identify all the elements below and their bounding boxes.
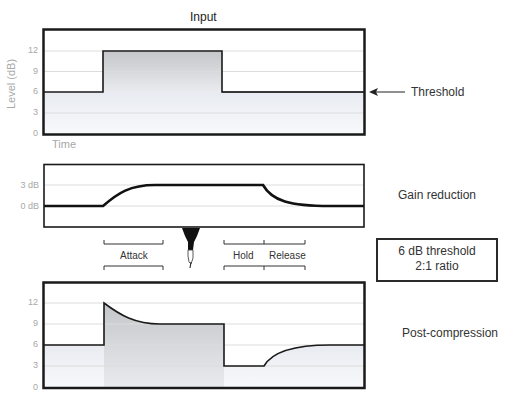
input-tick-3: 3: [8, 107, 38, 117]
threshold-setting: 6 dB threshold: [378, 244, 496, 259]
input-panel: [44, 30, 406, 135]
post-tick-3: 3: [8, 360, 38, 370]
ratio-setting: 2:1 ratio: [378, 259, 496, 274]
gain-reduction-label: Gain reduction: [398, 188, 476, 202]
release-label: Release: [269, 250, 306, 261]
threshold-label: Threshold: [411, 85, 464, 99]
post-tick-0: 0: [8, 382, 38, 392]
gain-reduction-panel: [44, 165, 364, 228]
post-compression-label: Post-compression: [402, 326, 498, 340]
diagram-graphics: [0, 0, 514, 404]
post-tick-9: 9: [8, 318, 38, 328]
post-tick-6: 6: [8, 339, 38, 349]
gain-tick-3db: 3 dB: [8, 180, 39, 190]
input-tick-0: 0: [8, 128, 38, 138]
attack-label: Attack: [120, 250, 148, 261]
gain-tick-0db: 0 dB: [8, 201, 39, 211]
x-axis-label: Time: [52, 138, 76, 150]
hold-label: Hold: [233, 250, 254, 261]
input-title: Input: [190, 10, 217, 24]
settings-box: 6 dB threshold 2:1 ratio: [376, 238, 498, 282]
compression-diagram: Input Level (dB) Time 12 9 6 3 0 Thresho…: [0, 0, 514, 404]
post-compression-panel: [44, 283, 365, 389]
input-tick-6: 6: [8, 86, 38, 96]
gain-reduction-curve: [44, 185, 364, 206]
post-tick-12: 12: [8, 297, 38, 307]
pointer-hand-icon: [182, 228, 200, 268]
gain-reduction-frame: [44, 165, 364, 228]
input-tick-9: 9: [8, 66, 38, 76]
input-tick-12: 12: [8, 45, 38, 55]
